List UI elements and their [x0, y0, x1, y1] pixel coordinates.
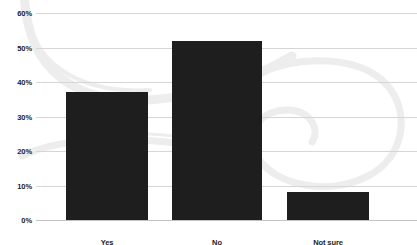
x-tick-label-not-sure: Not sure [287, 239, 369, 245]
y-tick-label-10: 10% [0, 182, 32, 190]
y-tick-label-40: 40% [0, 79, 32, 87]
y-tick-label-60: 60% [0, 10, 32, 18]
x-tick-label-no: No [172, 239, 262, 245]
bar-chart: 60% 50% 40% 30% 20% 10% 0% Yes No Not su… [0, 0, 417, 245]
gridline-60 [36, 13, 417, 14]
y-tick-label-0: 0% [0, 217, 32, 225]
y-tick-label-30: 30% [0, 113, 32, 121]
gridline-0-baseline [36, 220, 417, 221]
x-tick-label-yes: Yes [66, 239, 148, 245]
bar-yes [66, 92, 148, 220]
bar-no [172, 41, 262, 220]
y-tick-label-20: 20% [0, 148, 32, 156]
y-tick-label-50: 50% [0, 44, 32, 52]
bar-not-sure [287, 192, 369, 220]
plot-area: 60% 50% 40% 30% 20% 10% 0% Yes No Not su… [36, 13, 417, 220]
